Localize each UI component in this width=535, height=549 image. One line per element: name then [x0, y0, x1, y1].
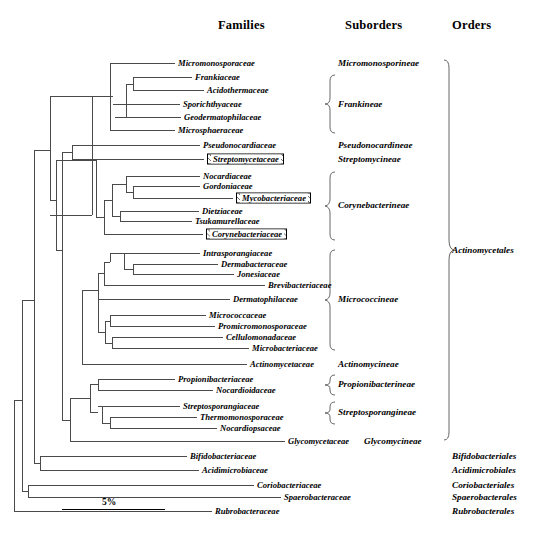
family-label: Nocardiopsaceae — [220, 424, 281, 433]
order-label: Coriobacteriales — [452, 480, 514, 490]
family-label: Acidimicrobiaceae — [202, 466, 268, 475]
family-label: Streptosporangiaceae — [183, 402, 259, 411]
family-label: Sporichthyaceae — [183, 100, 242, 109]
scale-bar-line — [62, 509, 165, 510]
family-label: Nocardiaceae — [203, 172, 252, 181]
suborder-label: Frankineae — [338, 99, 382, 109]
order-label: Actinomycetales — [452, 245, 514, 255]
family-label: Actinomycetaceae — [250, 360, 314, 369]
family-label: Jonesiaceae — [237, 270, 280, 279]
family-label: Nocardioidaceae — [216, 386, 276, 395]
family-label: Streptomycetaceae — [207, 154, 284, 165]
family-label: Coriobacteriaceae — [257, 481, 321, 490]
suborder-label: Streptosporangineae — [338, 407, 416, 417]
family-label: Dermatophilaceae — [233, 295, 298, 304]
order-label: Spaerobacterales — [452, 492, 517, 502]
family-label: Bifidobacteriaceae — [190, 452, 256, 461]
family-label: Pseudonocardiaceae — [203, 141, 276, 150]
suborder-label: Propionibacterineae — [338, 379, 415, 389]
suborder-label: Actinomycineae — [338, 359, 399, 369]
family-label: Promicromonosporaceae — [218, 322, 307, 331]
family-label: Brevibacteriaceae — [268, 281, 331, 290]
family-label: Dermabacteraceae — [221, 260, 287, 269]
family-label: Acidothermaceae — [207, 86, 269, 95]
family-label: Microbacteriaceae — [252, 344, 318, 353]
family-label: Micrococcaceae — [209, 311, 266, 320]
order-label: Bifidobacteriales — [452, 451, 516, 461]
family-label: Rubrobacteraceae — [215, 507, 279, 516]
family-label: Tsukamurellaceae — [195, 217, 260, 226]
family-label: Frankiaceae — [195, 73, 240, 82]
family-label: Micromonosporaceae — [178, 59, 255, 68]
family-label: Propionibacteriaceae — [178, 375, 253, 384]
family-label: Intrasporangiaceae — [203, 249, 272, 258]
order-label: Rubrobacterales — [452, 506, 514, 516]
family-label: Cellulomonadaceae — [226, 333, 296, 342]
scale-bar-label: 5% — [102, 497, 116, 507]
phylogenetic-tree-figure: Families Suborders Orders — [0, 0, 535, 549]
family-label-text: Mycobacteriaceae — [240, 194, 308, 203]
family-label: Corynebacteriaceae — [206, 229, 287, 240]
family-label: Glycomycetaceae — [288, 437, 349, 446]
family-label: Spaerobacteraceae — [284, 493, 351, 502]
order-label: Acidimicrobiales — [452, 465, 516, 475]
suborder-label: Glycomycineae — [364, 436, 422, 446]
family-label: Dietziaceae — [202, 207, 243, 216]
family-label: Mycobacteriaceae — [236, 193, 311, 204]
suborder-label: Corynebacterineae — [338, 200, 409, 210]
family-label-text: Corynebacteriaceae — [210, 230, 284, 239]
suborder-label: Streptomycineae — [338, 154, 401, 164]
family-label: Gordoniaceae — [203, 182, 253, 191]
family-label: Microsphaeraceae — [178, 126, 243, 135]
suborder-label: Micromonosporineae — [338, 58, 419, 68]
suborder-label: Pseudonocardineae — [338, 140, 413, 150]
family-label: Thermomonosporaceae — [200, 413, 284, 422]
suborder-label: Micrococcineae — [338, 294, 398, 304]
family-label-text: Streptomycetaceae — [211, 155, 281, 164]
family-label: Geodermatophilaceae — [184, 113, 261, 122]
